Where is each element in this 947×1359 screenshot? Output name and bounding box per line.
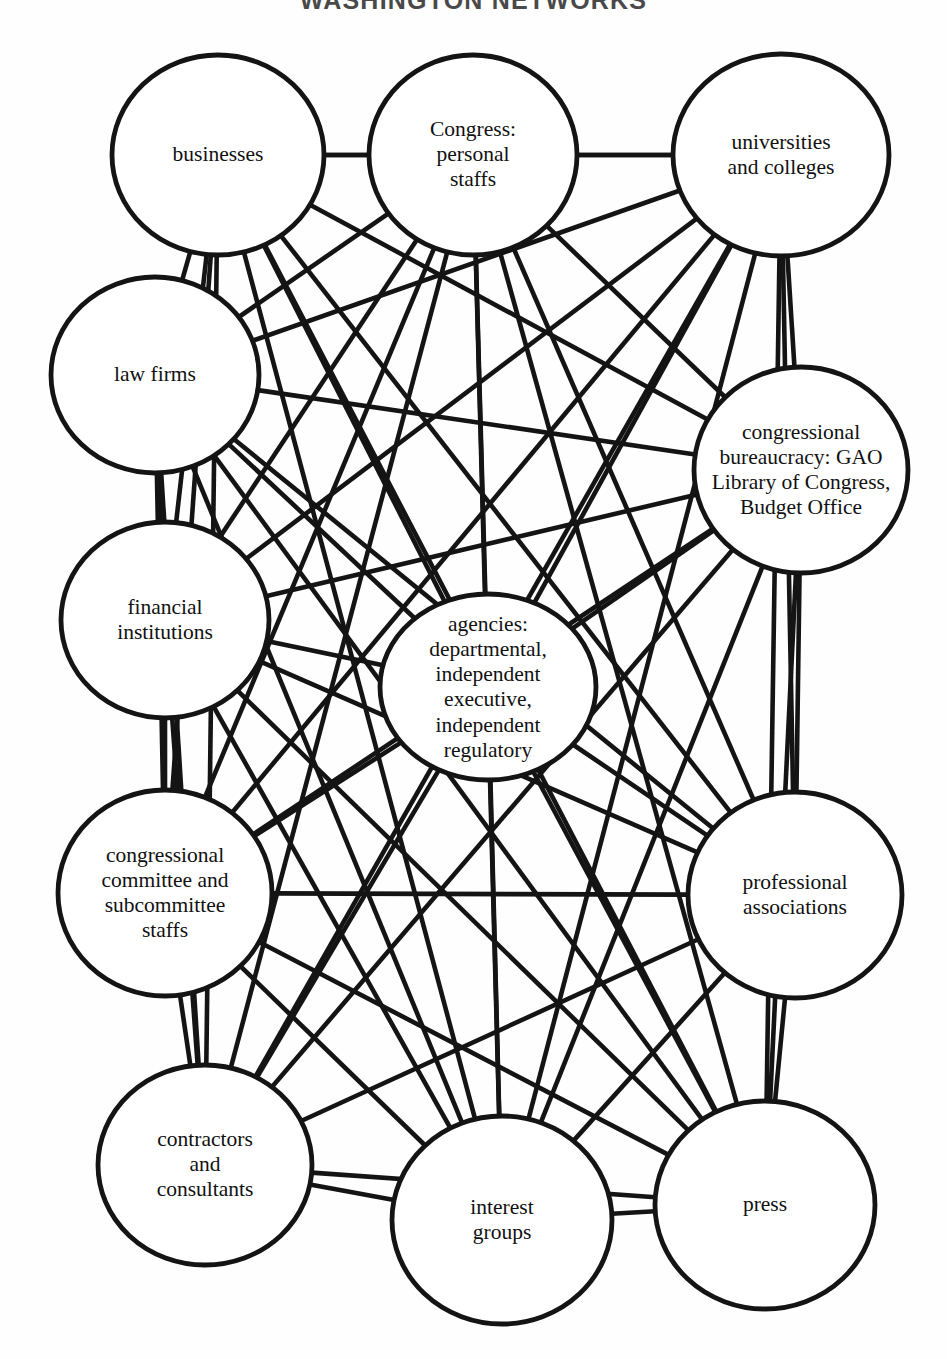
edge-interest_groups-to-press xyxy=(612,1211,655,1213)
edge-universities-to-cong_bureaucracy xyxy=(787,256,794,367)
node-congress[interactable] xyxy=(369,55,577,255)
node-contractors[interactable] xyxy=(98,1065,312,1265)
node-agencies[interactable] xyxy=(380,594,596,780)
node-layer xyxy=(51,54,908,1324)
diagram-page: WASHINGTON NETWORKS businessesCongress: … xyxy=(0,0,947,1359)
node-cong_bureaucracy[interactable] xyxy=(694,367,908,573)
edge-universities-to-financial xyxy=(246,218,697,558)
edge-cong_committees-to-prof_assoc xyxy=(272,893,688,894)
node-universities[interactable] xyxy=(673,54,889,256)
edge-cong_bureaucracy-to-prof_assoc xyxy=(796,573,799,792)
node-financial[interactable] xyxy=(61,522,269,718)
edge-contractors-to-interest_groups xyxy=(310,1184,394,1200)
network-diagram xyxy=(0,0,947,1359)
node-businesses[interactable] xyxy=(112,55,324,255)
node-cong_committees[interactable] xyxy=(58,790,272,996)
node-law_firms[interactable] xyxy=(51,277,259,473)
node-interest_groups[interactable] xyxy=(392,1116,612,1324)
edge-universities-to-agencies xyxy=(534,245,731,603)
edge-businesses-to-law_firms xyxy=(182,252,190,281)
node-prof_assoc[interactable] xyxy=(688,792,902,998)
edge-cong_committees-to-contractors xyxy=(180,995,190,1066)
node-press[interactable] xyxy=(655,1101,875,1309)
